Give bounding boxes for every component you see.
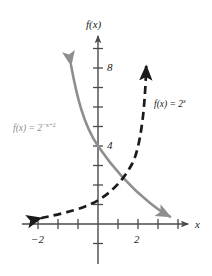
- gray-curve-equation-label: f(x) = 2−x+2: [13, 122, 56, 134]
- y-axis-label: f(x): [86, 19, 101, 30]
- x-axis-label: x: [195, 219, 200, 230]
- x-axis: [22, 219, 188, 229]
- curve-exponential-growth-dashed: [41, 66, 146, 218]
- x-tick-label-2: 2: [134, 234, 140, 245]
- function-graph-figure: f(x) x 8 4 −2 2 f(x) = 2−x+2 f(x) = 2x: [0, 0, 212, 276]
- y-tick-label-4: 4: [107, 140, 113, 151]
- dashed-curve-equation-label: f(x) = 2x: [154, 98, 186, 110]
- x-tick-label-minus-2: −2: [31, 234, 44, 245]
- dashed-curve-path: [41, 66, 146, 218]
- curve-exponential-decay-gray: [71, 65, 170, 217]
- y-tick-label-8: 8: [107, 62, 113, 73]
- gray-curve-path: [71, 65, 170, 217]
